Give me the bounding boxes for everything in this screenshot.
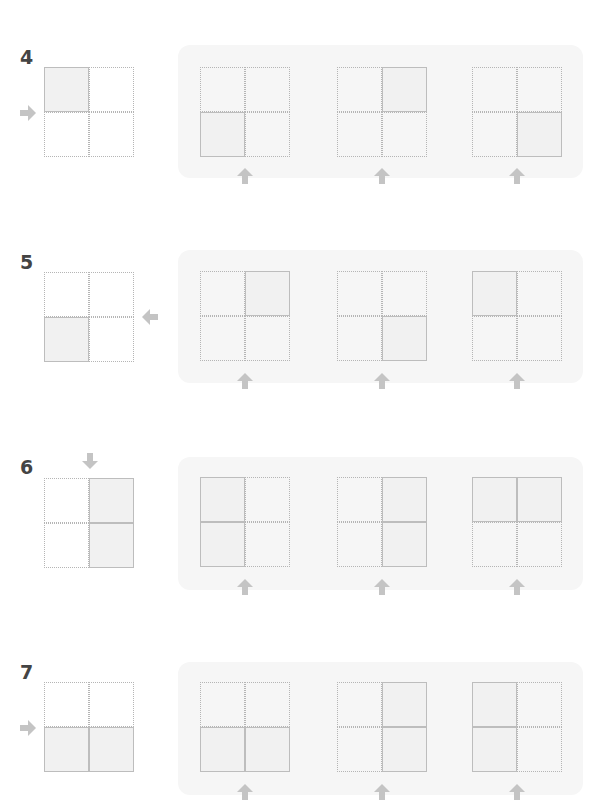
- arrow-up-icon: [237, 579, 253, 595]
- grid-cell-br-shaded: [89, 523, 134, 568]
- option-grid[interactable]: [200, 477, 290, 567]
- arrow-up-icon: [237, 373, 253, 389]
- grid-cell-bl: [337, 112, 382, 157]
- arrow-up-icon: [509, 168, 525, 184]
- question-number: 6: [20, 458, 33, 477]
- grid-cell-bl: [472, 112, 517, 157]
- prompt-grid: [44, 478, 134, 568]
- grid-cell-tr-shaded: [382, 477, 427, 522]
- grid-cell-tl: [472, 67, 517, 112]
- grid-cell-tl: [337, 682, 382, 727]
- grid-cell-tr: [382, 271, 427, 316]
- grid-cell-tr: [245, 477, 290, 522]
- grid-cell-tl: [337, 271, 382, 316]
- option-grid[interactable]: [472, 682, 562, 772]
- question-number: 4: [20, 48, 33, 67]
- arrow-up-icon: [374, 168, 390, 184]
- grid-cell-bl: [200, 316, 245, 361]
- grid-cell-br: [245, 522, 290, 567]
- arrow-up-icon: [509, 373, 525, 389]
- question-number: 5: [20, 253, 33, 272]
- grid-cell-tr: [245, 682, 290, 727]
- prompt-grid: [44, 682, 134, 772]
- grid-cell-br-shaded: [382, 316, 427, 361]
- grid-cell-bl: [44, 523, 89, 568]
- grid-cell-tr-shaded: [89, 478, 134, 523]
- grid-cell-br: [517, 522, 562, 567]
- grid-cell-br: [89, 317, 134, 362]
- option-grid[interactable]: [472, 271, 562, 361]
- option-grid[interactable]: [337, 682, 427, 772]
- grid-cell-tr-shaded: [517, 477, 562, 522]
- grid-cell-tl: [44, 272, 89, 317]
- grid-cell-bl-shaded: [472, 727, 517, 772]
- grid-cell-tl-shaded: [200, 477, 245, 522]
- grid-cell-tl: [200, 67, 245, 112]
- option-grid[interactable]: [200, 271, 290, 361]
- option-grid[interactable]: [200, 67, 290, 157]
- grid-cell-br: [517, 316, 562, 361]
- grid-cell-tl: [200, 271, 245, 316]
- grid-cell-bl-shaded: [200, 112, 245, 157]
- grid-cell-br-shaded: [382, 727, 427, 772]
- option-grid[interactable]: [337, 67, 427, 157]
- arrow-up-icon: [509, 579, 525, 595]
- grid-cell-tl: [44, 478, 89, 523]
- grid-cell-tr-shaded: [382, 67, 427, 112]
- grid-cell-tr: [245, 67, 290, 112]
- grid-cell-tr: [89, 682, 134, 727]
- grid-cell-tr-shaded: [245, 271, 290, 316]
- grid-cell-bl: [472, 316, 517, 361]
- grid-cell-tr: [517, 67, 562, 112]
- grid-cell-bl-shaded: [44, 727, 89, 772]
- grid-cell-br-shaded: [245, 727, 290, 772]
- grid-cell-bl-shaded: [44, 317, 89, 362]
- grid-cell-tl: [337, 67, 382, 112]
- question-number: 7: [20, 663, 33, 682]
- grid-cell-br: [245, 316, 290, 361]
- grid-cell-tl-shaded: [44, 67, 89, 112]
- arrow-up-icon: [509, 784, 525, 800]
- grid-cell-tl-shaded: [472, 477, 517, 522]
- grid-cell-bl: [44, 112, 89, 157]
- arrow-up-icon: [237, 168, 253, 184]
- grid-cell-bl-shaded: [200, 727, 245, 772]
- grid-cell-br: [517, 727, 562, 772]
- option-grid[interactable]: [472, 477, 562, 567]
- grid-cell-bl: [337, 316, 382, 361]
- grid-cell-tr: [517, 271, 562, 316]
- arrow-up-icon: [374, 373, 390, 389]
- arrow-up-icon: [374, 784, 390, 800]
- grid-cell-br-shaded: [517, 112, 562, 157]
- grid-cell-tl: [337, 477, 382, 522]
- grid-cell-tr: [89, 67, 134, 112]
- grid-cell-bl-shaded: [200, 522, 245, 567]
- grid-cell-bl: [337, 727, 382, 772]
- grid-cell-tl: [200, 682, 245, 727]
- grid-cell-tl: [44, 682, 89, 727]
- grid-cell-tl-shaded: [472, 682, 517, 727]
- grid-cell-tr: [517, 682, 562, 727]
- option-grid[interactable]: [337, 271, 427, 361]
- grid-cell-br: [89, 112, 134, 157]
- arrow-up-icon: [374, 579, 390, 595]
- prompt-grid: [44, 67, 134, 157]
- arrow-left-icon: [142, 309, 158, 325]
- grid-cell-bl: [472, 522, 517, 567]
- grid-cell-br: [245, 112, 290, 157]
- prompt-grid: [44, 272, 134, 362]
- arrow-up-icon: [237, 784, 253, 800]
- grid-cell-br-shaded: [382, 522, 427, 567]
- grid-cell-tl-shaded: [472, 271, 517, 316]
- arrow-right-icon: [20, 720, 36, 736]
- grid-cell-tr-shaded: [382, 682, 427, 727]
- option-grid[interactable]: [337, 477, 427, 567]
- grid-cell-bl: [337, 522, 382, 567]
- arrow-down-icon: [82, 453, 98, 469]
- grid-cell-br: [382, 112, 427, 157]
- grid-cell-tr: [89, 272, 134, 317]
- arrow-right-icon: [20, 105, 36, 121]
- option-grid[interactable]: [472, 67, 562, 157]
- grid-cell-br-shaded: [89, 727, 134, 772]
- option-grid[interactable]: [200, 682, 290, 772]
